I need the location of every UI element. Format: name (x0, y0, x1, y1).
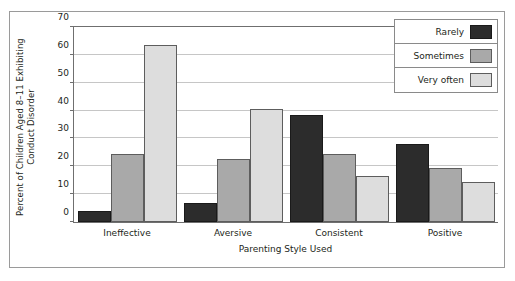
y-tick-label: 70 (58, 12, 69, 22)
x-axis-title: Parenting Style Used (73, 244, 498, 254)
legend-swatch (470, 73, 492, 87)
y-tick-label: 40 (58, 96, 69, 106)
bar[interactable] (396, 144, 429, 222)
y-axis-title: Percent of Children Aged 8–11 Exhibiting… (6, 32, 46, 222)
bar[interactable] (429, 168, 462, 222)
bar-group: Consistent (286, 27, 392, 222)
legend-swatch (470, 49, 492, 63)
legend-item[interactable]: Sometimes (395, 44, 497, 68)
bar[interactable] (356, 176, 389, 222)
bar[interactable] (144, 45, 177, 222)
y-tick-label: 20 (58, 151, 69, 161)
bar[interactable] (184, 203, 217, 223)
x-tick-label: Positive (392, 228, 498, 238)
y-tick-label: 10 (58, 179, 69, 189)
chart-figure: Percent of Children Aged 8–11 Exhibiting… (9, 11, 505, 268)
x-tick-label: Aversive (180, 228, 286, 238)
bar[interactable] (78, 211, 111, 222)
bar[interactable] (250, 109, 283, 222)
x-tick-label: Ineffective (74, 228, 180, 238)
legend-label: Rarely (436, 27, 464, 37)
x-tick-label: Consistent (286, 228, 392, 238)
y-tick-label: 30 (58, 123, 69, 133)
y-tick-label: 0 (63, 207, 69, 217)
legend-swatch (470, 25, 492, 39)
legend-label: Very often (418, 75, 464, 85)
y-tick-label: 50 (58, 68, 69, 78)
bar[interactable] (323, 154, 356, 222)
legend-label: Sometimes (413, 51, 464, 61)
bar[interactable] (462, 182, 495, 222)
bar[interactable] (217, 159, 250, 222)
legend-item[interactable]: Rarely (395, 20, 497, 44)
bar[interactable] (111, 154, 144, 222)
bar-group: Aversive (180, 27, 286, 222)
bar[interactable] (290, 115, 323, 222)
bar-group: Ineffective (74, 27, 180, 222)
chart-legend: RarelySometimesVery often (394, 19, 498, 93)
y-tick-label: 60 (58, 40, 69, 50)
legend-item[interactable]: Very often (395, 68, 497, 92)
